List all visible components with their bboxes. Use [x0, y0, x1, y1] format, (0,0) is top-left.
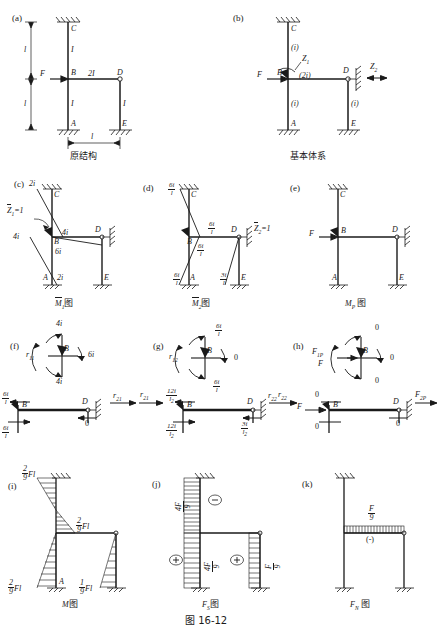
panel-c-m1-diagram: (c) — [0, 175, 140, 315]
joint-label-c-b: C — [291, 25, 296, 33]
panel-a-title: 原结构 — [70, 152, 97, 161]
joint-label-b-e: B — [341, 227, 346, 235]
value-6il-top: 6il — [168, 180, 175, 197]
joint-label-a-i: A — [59, 578, 64, 586]
shear-value-12il2-bottom-g: 12il2 — [166, 422, 177, 440]
joint-label-b-beam-h: B — [333, 401, 338, 409]
joint-label-e-e: E — [399, 274, 404, 282]
value-3il-bottom: 3il — [220, 270, 227, 287]
support-hatch-c-d — [179, 184, 199, 189]
value-6il-top-g: 6il — [215, 321, 222, 338]
sign-minus-k: (-) — [366, 536, 374, 544]
joint-label-a: A — [71, 120, 76, 128]
joint-label-a-e: A — [332, 274, 337, 282]
value-6il-beam-upper: 6il — [208, 219, 215, 236]
shear-block-de-j — [249, 533, 260, 588]
panel-c-title: M1图 — [55, 299, 73, 310]
panel-d-m2-diagram: (d) — [135, 175, 280, 315]
shear-arrows-g — [139, 400, 279, 424]
support-hatch-c-e — [328, 184, 348, 189]
joint-label-b-beam-g: B — [187, 401, 192, 409]
frame-members-e — [338, 189, 397, 285]
support-hatch-a — [57, 130, 80, 135]
coefficient-label-f1p: F1P — [312, 348, 323, 358]
joint-label-b-b: B — [277, 69, 282, 77]
support-hatch-a-d — [180, 285, 199, 289]
panel-a-original-structure: (a) — [0, 0, 215, 175]
support-hatch-e-i — [107, 588, 126, 592]
panel-g-r12: (g) — [135, 315, 280, 460]
stiffness-label-ab: (i) — [291, 100, 299, 108]
support-hatch-top-k — [335, 473, 355, 478]
load-arrow-f — [50, 76, 68, 82]
panel-i-m-diagram: (i) — [0, 460, 145, 639]
figure-caption: 图 16-12 — [185, 616, 227, 626]
joint-label-d-beam-h: D — [393, 398, 399, 406]
joint-label-d-c: D — [95, 226, 101, 234]
support-hatch-top-j — [195, 473, 215, 478]
dimension-label-upper-l: l — [24, 46, 26, 54]
panel-k-title: FN 图 — [350, 600, 370, 611]
hinge-d — [118, 77, 122, 81]
shear-value-zero-bottom-h: 0 — [315, 423, 319, 431]
load-arrow-f-e — [319, 234, 338, 240]
joint-label-e: E — [122, 120, 127, 128]
unit-displacement-label-c: Z1=1 — [7, 207, 24, 217]
value-6il-bottom: 6il — [173, 270, 180, 287]
load-label-f: F — [40, 70, 45, 78]
moment-area-bc-i — [37, 478, 56, 510]
joint-label-a-d: A — [190, 274, 195, 282]
joint-label-b-f: B — [64, 345, 69, 353]
panel-b-title: 基本体系 — [290, 152, 326, 161]
stiffness-label-bc: (i) — [291, 44, 299, 52]
frame-members-b — [288, 22, 348, 130]
value-f-9-k: F9 — [368, 504, 375, 522]
coefficient-label-r22-in-h: r22 — [278, 391, 287, 401]
stiffness-label-bd: (2i) — [299, 72, 311, 80]
support-hatch-c — [56, 17, 80, 22]
unknown-label-z2: Z2 — [370, 63, 377, 73]
value-6i-right-f: 6i — [88, 351, 94, 359]
member-label-bd: 2I — [88, 70, 95, 78]
value-zero-right-h: 0 — [390, 354, 394, 362]
dimension-label-span-l: l — [91, 133, 93, 141]
unknown-label-z1: Z1 — [302, 55, 309, 65]
support-hatch-e-c — [93, 285, 112, 289]
support-hatch-top-i — [51, 473, 71, 478]
coefficient-label-r21-in-g: r21 — [140, 391, 149, 401]
value-2i-bottom: 2i — [57, 274, 63, 282]
value-2-9-fl-top-i: 29Fl — [22, 464, 35, 482]
panel-k-axial-diagram: (k) — [288, 460, 440, 639]
joint-label-b: B — [71, 69, 76, 77]
shear-value-6il-bottom-f: 6il — [2, 423, 9, 440]
joint-label-e-d: E — [241, 274, 246, 282]
shear-block-ab-j — [184, 533, 200, 588]
shear-value-3il2-g: 3il2 — [241, 420, 248, 438]
moment-area-ab-i — [37, 533, 56, 588]
unit-displacement-label-d: Z2=1 — [254, 225, 271, 235]
coefficient-label-f2p-h: F2P — [415, 391, 426, 401]
z2-arrow — [367, 76, 387, 81]
coefficient-label-r12: r12 — [169, 353, 178, 363]
joint-cross-g — [191, 337, 221, 379]
value-4i-right: 4i — [62, 229, 68, 237]
value-zero-top-h: 0 — [375, 324, 379, 332]
support-hatch-e-k — [395, 588, 414, 592]
support-hatch-e-d — [230, 285, 249, 289]
shear-value-zero-d-h: 0 — [396, 420, 400, 428]
support-hatch-a-e — [329, 285, 348, 289]
panel-e-mp-diagram: (e) — [275, 175, 440, 315]
joint-label-d: D — [117, 69, 123, 77]
axial-band-bd-k — [344, 526, 404, 533]
panel-f-r11: (f) — [0, 315, 140, 460]
joint-label-b-c: B — [54, 238, 59, 246]
joint-label-d-e: D — [392, 226, 398, 234]
load-label-f-b: F — [257, 71, 262, 79]
member-label-ci: I — [71, 46, 74, 54]
joint-label-e-c: E — [104, 274, 109, 282]
panel-j-shear-diagram: (j) — [140, 460, 290, 639]
moment-area-bc-lower-i — [56, 510, 75, 533]
panel-j-title: FS图 — [202, 600, 219, 611]
coefficient-label-r21-f: r21 — [113, 392, 122, 402]
joint-label-b-g: B — [207, 347, 212, 355]
